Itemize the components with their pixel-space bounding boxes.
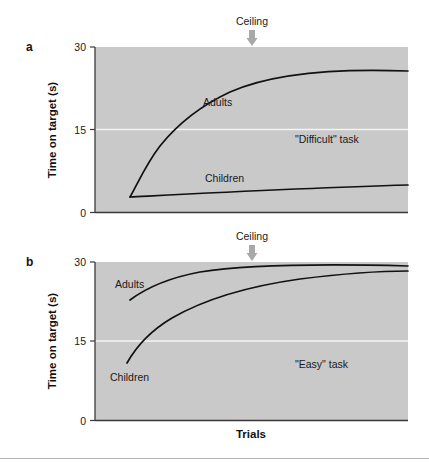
panel-a-series-label-adults: Adults <box>203 96 232 108</box>
panel-a-ceiling-arrow-icon <box>247 30 258 46</box>
panel-b-y-axis-title: Time on target (s) <box>46 293 58 389</box>
panel-b-task-label: "Easy" task <box>295 358 349 370</box>
panel-a-tick-label-0: 0 <box>80 207 86 219</box>
panel-b-ceiling-label: Ceiling <box>236 230 268 242</box>
panel-b: Ceiling b 30 15 0 Time on target (s) <box>26 230 408 440</box>
panel-a-tick-label-15: 15 <box>74 124 86 136</box>
panel-a-y-axis-title: Time on target (s) <box>46 82 58 178</box>
figure-canvas: Ceiling a 30 15 0 Time on target (s) <box>0 0 429 465</box>
panel-a-series-label-children: Children <box>205 172 244 184</box>
panel-a: Ceiling a 30 15 0 Time on target (s) <box>26 15 408 219</box>
panel-b-tick-label-0: 0 <box>80 415 86 427</box>
panel-b-tick-label-30: 30 <box>74 256 86 268</box>
panel-b-series-label-adults: Adults <box>115 278 144 290</box>
panel-a-letter: a <box>26 40 33 54</box>
panel-a-ceiling-label: Ceiling <box>236 15 268 27</box>
panel-b-series-label-children: Children <box>110 371 149 383</box>
panel-b-tick-label-15: 15 <box>74 335 86 347</box>
panel-a-tick-label-30: 30 <box>74 41 86 53</box>
figure-container: Ceiling a 30 15 0 Time on target (s) <box>0 0 429 465</box>
x-axis-title: Trials <box>236 428 266 440</box>
panel-a-task-label: "Difficult" task <box>295 133 360 145</box>
panel-b-ceiling-arrow-icon <box>247 245 258 261</box>
panel-b-letter: b <box>26 255 33 269</box>
